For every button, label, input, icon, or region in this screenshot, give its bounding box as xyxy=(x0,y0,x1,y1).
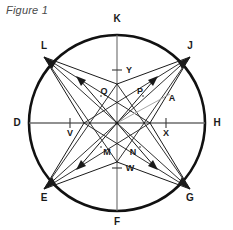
point-label-k: K xyxy=(113,14,120,24)
interior-label-m: M xyxy=(103,148,111,157)
point-label-g: G xyxy=(186,193,194,203)
point-label-l: L xyxy=(41,41,47,51)
radial-line-center-to-g xyxy=(117,123,190,189)
geometric-diagram xyxy=(0,0,233,230)
tick-label-v: V xyxy=(67,129,73,138)
point-label-d: D xyxy=(13,118,20,128)
interior-label-p: P xyxy=(137,87,143,96)
point-label-e: E xyxy=(41,193,48,203)
point-label-j: J xyxy=(187,41,193,51)
point-label-h: H xyxy=(213,118,220,128)
tick-label-w: W xyxy=(126,164,135,173)
tick-label-y: Y xyxy=(126,66,132,75)
figure-container: Figure 1 xyxy=(0,0,233,230)
interior-label-q: Q xyxy=(100,87,107,96)
marker-dot-n xyxy=(139,146,141,148)
point-label-f: F xyxy=(114,217,120,227)
center-point xyxy=(115,121,118,124)
interior-label-n: N xyxy=(130,148,137,157)
interior-label-a: A xyxy=(169,94,176,103)
marker-dot-m xyxy=(100,146,102,148)
tick-label-x: X xyxy=(163,129,169,138)
